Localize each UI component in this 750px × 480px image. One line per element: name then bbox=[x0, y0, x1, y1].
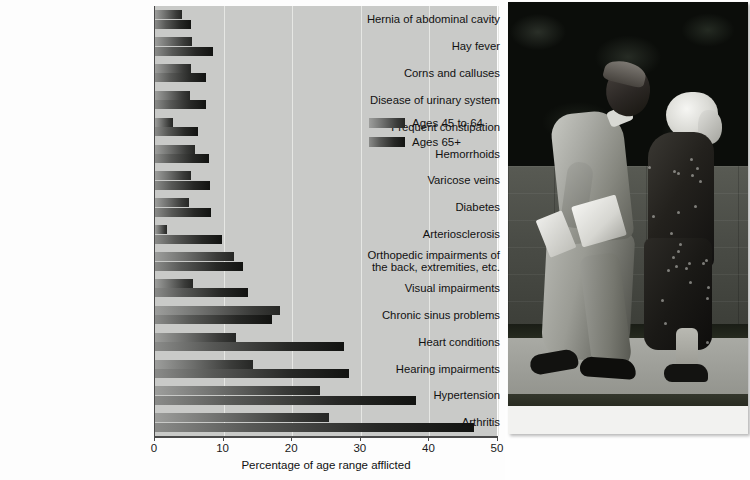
bar-ages-45-64 bbox=[155, 333, 236, 342]
category-label: Heart conditions bbox=[355, 336, 505, 349]
x-axis-title: Percentage of age range afflicted bbox=[154, 459, 498, 471]
bar-ages-45-64 bbox=[155, 360, 253, 369]
legend-item-ages-65-plus: Ages 65+ bbox=[369, 136, 483, 148]
x-tick-label-0: 0 bbox=[151, 442, 157, 454]
bar-chart-panel: 01020304050 Percentage of age range affl… bbox=[0, 0, 505, 480]
photo-texture-speck bbox=[677, 211, 680, 214]
bar-ages-45-64 bbox=[155, 252, 234, 261]
bar-ages-45-64 bbox=[155, 171, 191, 180]
bar-ages-65-plus bbox=[155, 315, 272, 324]
bar-ages-65-plus bbox=[155, 288, 248, 297]
photo-woman-shoe bbox=[664, 364, 708, 382]
bar-ages-45-64 bbox=[155, 118, 173, 127]
legend-swatch-ages-45-to-64 bbox=[369, 118, 405, 128]
category-label: Chronic sinus problems bbox=[355, 309, 505, 322]
photo-texture-speck bbox=[694, 205, 697, 208]
photo-texture-speck bbox=[685, 267, 688, 270]
bar-ages-65-plus bbox=[155, 208, 211, 217]
x-tick-0 bbox=[154, 436, 155, 441]
legend: Ages 45 to 64 Ages 65+ bbox=[369, 117, 483, 155]
category-label: Visual impairments bbox=[355, 282, 505, 295]
bar-ages-45-64 bbox=[155, 10, 182, 19]
bar-ages-65-plus bbox=[155, 127, 198, 136]
category-label: Hernia of abdominal cavity bbox=[355, 13, 505, 26]
bar-ages-45-64 bbox=[155, 37, 192, 46]
x-tick-40 bbox=[428, 436, 429, 441]
bar-ages-65-plus bbox=[155, 181, 210, 190]
x-tick-label-10: 10 bbox=[216, 442, 229, 454]
photo-texture-speck bbox=[652, 215, 655, 218]
photo-texture-speck bbox=[675, 265, 678, 268]
bar-ages-65-plus bbox=[155, 154, 209, 163]
photo-texture-speck bbox=[679, 243, 682, 246]
bar-ages-65-plus bbox=[155, 369, 349, 378]
photo-texture-speck bbox=[673, 170, 676, 173]
x-tick-10 bbox=[223, 436, 224, 441]
category-label: Orthopedic impairments ofthe back, extre… bbox=[355, 249, 505, 274]
x-axis-line bbox=[154, 436, 498, 438]
bar-ages-65-plus bbox=[155, 100, 206, 109]
category-label: Hypertension bbox=[355, 389, 505, 402]
legend-label-ages-45-to-64: Ages 45 to 64 bbox=[412, 117, 483, 129]
bar-ages-45-64 bbox=[155, 64, 191, 73]
photo-texture-speck bbox=[706, 341, 709, 344]
category-label: Hearing impairments bbox=[355, 363, 505, 376]
photo-texture-speck bbox=[648, 166, 651, 169]
x-tick-label-50: 50 bbox=[491, 442, 504, 454]
category-label: Arteriosclerosis bbox=[355, 228, 505, 241]
x-tick-label-40: 40 bbox=[422, 442, 435, 454]
bar-ages-65-plus bbox=[155, 73, 206, 82]
bar-ages-45-64 bbox=[155, 198, 189, 207]
elderly-couple-photograph bbox=[508, 2, 748, 434]
photo-lower-border bbox=[508, 406, 748, 434]
category-label: Varicose veins bbox=[355, 174, 505, 187]
category-label: Arthritis bbox=[355, 416, 505, 429]
category-label: Corns and calluses bbox=[355, 67, 505, 80]
bar-ages-65-plus bbox=[155, 262, 243, 271]
x-tick-30 bbox=[360, 436, 361, 441]
photo-texture-speck bbox=[677, 172, 680, 175]
x-tick-50 bbox=[497, 436, 498, 441]
x-tick-20 bbox=[291, 436, 292, 441]
photo-man-back-shoe bbox=[579, 356, 636, 380]
bar-ages-45-64 bbox=[155, 413, 329, 422]
bar-ages-45-64 bbox=[155, 279, 193, 288]
bar-ages-45-64 bbox=[155, 306, 280, 315]
category-label: Disease of urinary system bbox=[355, 94, 505, 107]
bar-ages-45-64 bbox=[155, 386, 320, 395]
bar-ages-45-64 bbox=[155, 145, 195, 154]
figure-root: 01020304050 Percentage of age range affl… bbox=[0, 0, 750, 480]
bar-ages-65-plus bbox=[155, 47, 213, 56]
bar-ages-45-64 bbox=[155, 225, 167, 234]
x-tick-label-30: 30 bbox=[353, 442, 366, 454]
x-tick-label-20: 20 bbox=[285, 442, 298, 454]
bar-ages-65-plus bbox=[155, 342, 344, 351]
legend-swatch-ages-65-plus bbox=[369, 137, 405, 147]
bar-ages-65-plus bbox=[155, 235, 222, 244]
legend-label-ages-65-plus: Ages 65+ bbox=[412, 136, 461, 148]
category-label: Diabetes bbox=[355, 201, 505, 214]
bar-ages-45-64 bbox=[155, 91, 190, 100]
photo-texture-speck bbox=[702, 262, 705, 265]
category-label: Hay fever bbox=[355, 40, 505, 53]
legend-item-ages-45-to-64: Ages 45 to 64 bbox=[369, 117, 483, 129]
bar-ages-65-plus bbox=[155, 20, 191, 29]
